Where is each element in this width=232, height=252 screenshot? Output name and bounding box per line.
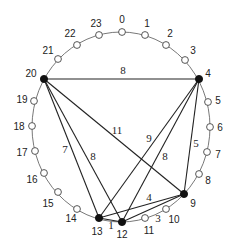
- empty-node-11: [142, 215, 149, 222]
- empty-node-14: [74, 206, 81, 213]
- node-label-17: 17: [16, 147, 28, 158]
- empty-node-10: [163, 206, 170, 213]
- empty-node-8: [196, 171, 203, 178]
- node-label-12: 12: [116, 229, 128, 240]
- edge-weight-label: 1: [108, 219, 114, 231]
- node-label-7: 7: [215, 149, 221, 160]
- empty-node-1: [142, 32, 149, 39]
- node-label-2: 2: [167, 28, 173, 39]
- node-label-21: 21: [42, 45, 54, 56]
- edge-20-9: [44, 79, 184, 194]
- node-label-6: 6: [217, 122, 223, 133]
- node-label-19: 19: [16, 94, 28, 105]
- empty-node-5: [205, 99, 212, 106]
- node-label-20: 20: [25, 68, 37, 79]
- edge-weight-label: 7: [62, 143, 68, 155]
- node-label-10: 10: [168, 214, 180, 225]
- edge-weight-label: 4: [146, 191, 152, 203]
- node-label-8: 8: [205, 175, 211, 186]
- empty-node-6: [207, 124, 214, 131]
- empty-node-22: [74, 42, 81, 49]
- filled-node-13: [95, 214, 102, 221]
- circular-graph-diagram: 81178985431 0123456789101112131415161718…: [0, 0, 232, 252]
- node-label-5: 5: [215, 95, 221, 106]
- filled-node-4: [195, 75, 202, 82]
- edge-20-12: [44, 79, 122, 222]
- node-label-15: 15: [42, 198, 54, 209]
- empty-node-7: [204, 149, 211, 156]
- filled-node-12: [118, 218, 125, 225]
- node-label-4: 4: [205, 68, 211, 79]
- empty-node-18: [29, 123, 36, 130]
- node-label-0: 0: [119, 14, 125, 25]
- empty-node-2: [163, 42, 170, 49]
- node-label-3: 3: [190, 45, 196, 56]
- edge-weight-label: 5: [193, 137, 199, 149]
- node-label-1: 1: [144, 18, 150, 29]
- edge-weight-label: 3: [155, 212, 161, 224]
- empty-node-3: [182, 57, 189, 64]
- node-label-18: 18: [13, 121, 25, 132]
- edge-weight-label: 9: [146, 132, 152, 144]
- empty-node-23: [96, 32, 103, 39]
- empty-node-21: [55, 56, 62, 63]
- edge-weight-label: 11: [112, 124, 123, 136]
- empty-node-17: [32, 148, 39, 155]
- node-label-13: 13: [91, 226, 103, 237]
- edge-weight-label: 8: [162, 150, 168, 162]
- empty-node-15: [55, 189, 62, 196]
- node-label-23: 23: [90, 18, 102, 29]
- node-label-11: 11: [144, 225, 155, 236]
- empty-node-19: [31, 98, 38, 105]
- node-label-16: 16: [26, 174, 38, 185]
- node-label-9: 9: [190, 198, 196, 209]
- node-label-14: 14: [65, 213, 77, 224]
- filled-node-20: [40, 75, 47, 82]
- empty-node-16: [41, 170, 48, 177]
- edge-weight-label: 8: [90, 150, 96, 162]
- empty-node-0: [119, 29, 126, 36]
- filled-node-9: [180, 190, 187, 197]
- node-label-22: 22: [64, 28, 76, 39]
- edge-weight-label: 8: [120, 64, 126, 76]
